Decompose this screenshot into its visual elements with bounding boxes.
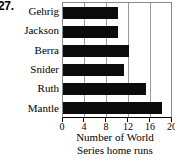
plot-area — [62, 2, 172, 118]
bar — [63, 83, 146, 95]
x-axis-title-line: Number of World — [55, 131, 175, 144]
category-axis: GehrigJacksonBerraSniderRuthMantle — [14, 2, 61, 118]
bar — [63, 102, 162, 114]
x-axis-title-line: Series home runs — [55, 144, 175, 157]
category-label: Gehrig — [14, 2, 61, 21]
category-label: Berra — [14, 41, 61, 60]
bar — [63, 64, 124, 76]
bar-row — [63, 98, 171, 117]
category-label: Jackson — [14, 21, 61, 40]
bar — [63, 45, 129, 57]
bar-row — [63, 41, 171, 60]
bar-row — [63, 79, 171, 98]
category-label: Mantle — [14, 99, 61, 118]
bar — [63, 7, 118, 19]
category-label: Ruth — [14, 79, 61, 98]
x-axis-title: Number of WorldSeries home runs — [55, 131, 175, 157]
bar-row — [63, 3, 171, 22]
bar — [63, 26, 118, 38]
bar-series — [63, 3, 171, 117]
category-label: Snider — [14, 60, 61, 79]
problem-number: 27. — [0, 0, 14, 13]
bar-row — [63, 60, 171, 79]
chart-figure: 27. GehrigJacksonBerraSniderRuthMantle 0… — [0, 0, 175, 160]
x-axis: 048121620 — [62, 118, 172, 132]
bar-row — [63, 22, 171, 41]
